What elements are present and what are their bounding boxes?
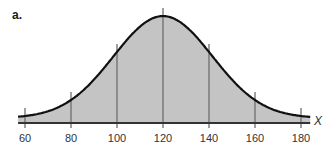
normal-distribution-chart: 6080100120140160180 X: [0, 0, 330, 156]
tick-label-180: 180: [292, 132, 310, 144]
tick-label-140: 140: [200, 132, 218, 144]
x-axis-ticks: 6080100120140160180: [19, 132, 310, 144]
x-axis-label: X: [313, 114, 323, 128]
tick-label-80: 80: [65, 132, 77, 144]
tick-label-160: 160: [246, 132, 264, 144]
tick-label-60: 60: [19, 132, 31, 144]
tick-label-120: 120: [154, 132, 172, 144]
tick-label-100: 100: [108, 132, 126, 144]
